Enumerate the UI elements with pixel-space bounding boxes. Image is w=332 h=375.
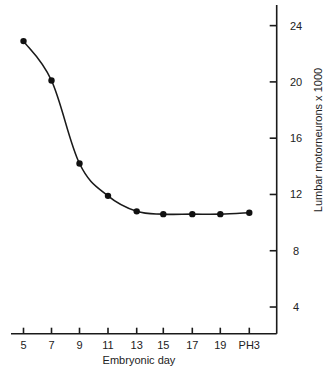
data-point [246,210,252,216]
data-point [48,77,54,83]
data-point [20,38,26,44]
y-tick-label: 20 [290,76,302,88]
data-point [105,193,111,199]
axes: 5791113151719PH3 4812162024 [11,5,302,351]
data-point [160,211,166,217]
x-tick-label: 5 [20,339,26,351]
y-axis-title: Lumbar motorneurons x 1000 [312,68,324,212]
data-point [217,211,223,217]
y-tick-label: 8 [293,245,299,257]
x-ticks: 5791113151719PH3 [20,328,260,351]
y-tick-label: 4 [293,301,299,313]
x-tick-label: 11 [102,339,113,351]
x-tick-label: 9 [76,339,82,351]
x-tick-label: 7 [48,339,54,351]
data-point [76,160,82,166]
x-tick-label: 15 [157,339,169,351]
data-line [24,41,250,214]
x-tick-label: 17 [186,339,198,351]
data-point [134,208,140,214]
x-axis-title: Embryonic day [103,354,176,366]
y-tick-label: 16 [290,132,302,144]
y-tick-label: 12 [290,188,302,200]
y-ticks: 4812162024 [270,20,302,313]
x-tick-label: PH3 [239,339,260,351]
data-markers [20,38,252,217]
x-tick-label: 19 [214,339,226,351]
y-tick-label: 24 [290,20,302,32]
data-point [189,211,195,217]
x-tick-label: 13 [131,339,143,351]
line-chart: 5791113151719PH3 4812162024 Embryonic da… [0,0,332,375]
